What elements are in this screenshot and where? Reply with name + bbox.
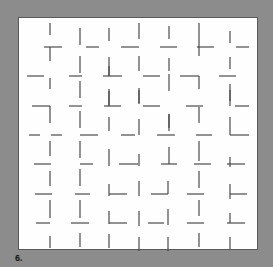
figure-label: 6.: [15, 253, 23, 263]
line-segment-grid: [19, 18, 259, 251]
puzzle-panel: [18, 17, 258, 250]
